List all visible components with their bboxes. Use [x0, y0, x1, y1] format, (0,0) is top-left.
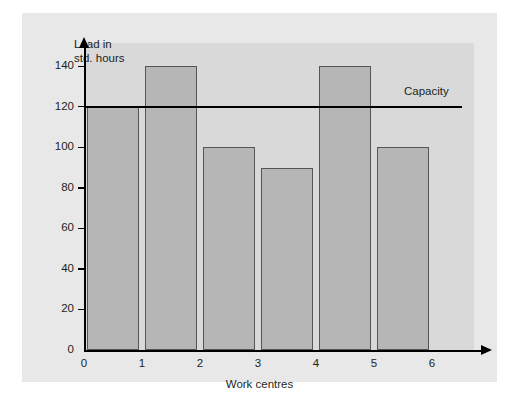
- x-axis-tick-label: 5: [359, 357, 389, 369]
- y-axis-tick-label: 100: [40, 140, 74, 152]
- y-axis-arrow-icon: [79, 37, 89, 48]
- bar: [145, 66, 197, 350]
- y-axis-tick: [78, 147, 84, 148]
- y-axis-tick-label: 40: [40, 262, 74, 274]
- y-axis-tick: [78, 228, 84, 229]
- chart-panel: Load in std. hours 020406080100120140 01…: [22, 13, 497, 382]
- y-axis-tick: [78, 187, 84, 188]
- y-axis-line: [84, 46, 86, 351]
- bar: [377, 147, 429, 350]
- x-axis-tick-label: 1: [127, 357, 157, 369]
- y-axis-tick: [78, 309, 84, 310]
- y-axis-tick: [78, 66, 84, 67]
- x-axis-line: [84, 350, 486, 352]
- y-axis-tick-label: 140: [40, 59, 74, 71]
- bar: [319, 66, 371, 350]
- y-axis-tick-label: 0: [40, 343, 74, 355]
- y-axis-tick: [78, 268, 84, 269]
- x-axis-tick-label: 6: [417, 357, 447, 369]
- x-axis-tick-label: 2: [185, 357, 215, 369]
- y-axis-tick-label: 120: [40, 100, 74, 112]
- y-axis-tick-label: 80: [40, 181, 74, 193]
- x-axis-tick-label: 3: [243, 357, 273, 369]
- bar: [261, 168, 313, 350]
- bar: [87, 107, 139, 350]
- bar: [203, 147, 255, 350]
- x-axis-title: Work centres: [22, 377, 497, 391]
- x-axis-tick-label: 0: [69, 357, 99, 369]
- y-axis-tick-label: 20: [40, 302, 74, 314]
- y-axis-tick-label: 60: [40, 221, 74, 233]
- capacity-label: Capacity: [404, 85, 449, 97]
- capacity-line: [84, 106, 462, 108]
- x-axis-arrow-icon: [481, 345, 492, 355]
- x-axis-tick-label: 4: [301, 357, 331, 369]
